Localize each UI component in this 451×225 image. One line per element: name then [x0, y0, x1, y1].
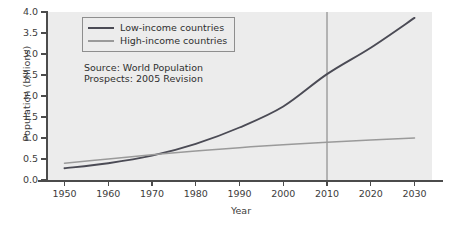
source-note: Source: World Population Prospects: 2005…	[84, 62, 203, 84]
legend-swatch-high-income	[88, 40, 114, 42]
legend-swatch-low-income	[88, 27, 114, 29]
legend-item-high-income: High-income countries	[88, 34, 227, 47]
legend-label-low-income: Low-income countries	[120, 22, 224, 33]
series-line-high-income-countries	[65, 138, 415, 163]
chart-legend: Low-income countries High-income countri…	[82, 17, 235, 52]
population-projection-chart: Population (billions) Year 0.00.51.01.52…	[0, 0, 451, 225]
legend-item-low-income: Low-income countries	[88, 21, 227, 34]
source-note-line-1: Source: World Population	[84, 62, 203, 73]
legend-label-high-income: High-income countries	[120, 35, 227, 46]
source-note-line-2: Prospects: 2005 Revision	[84, 73, 203, 84]
